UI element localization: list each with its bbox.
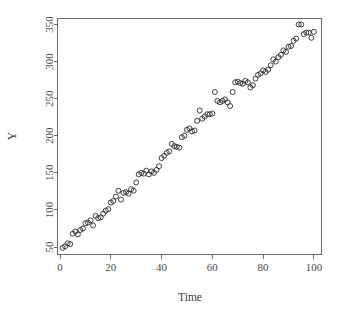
y-axis-title: Y — [6, 131, 18, 140]
x-axis-title: Time — [178, 291, 202, 303]
y-tick-label: 350 — [44, 16, 56, 33]
x-tick-label: 0 — [57, 261, 63, 273]
x-tick-label: 100 — [306, 261, 323, 273]
y-tick-label: 150 — [44, 164, 56, 181]
chart-screenshot: 50100150200250300350 020406080100 Y Time — [0, 0, 344, 319]
x-tick-label: 40 — [156, 261, 168, 273]
scatter-plot: 50100150200250300350 020406080100 Y Time — [0, 0, 344, 319]
y-tick-label: 300 — [44, 53, 56, 70]
y-tick-label: 250 — [44, 90, 56, 107]
x-tick-label: 60 — [207, 261, 219, 273]
y-tick-label: 100 — [44, 201, 56, 218]
y-tick-label: 200 — [44, 127, 56, 144]
y-tick-label: 50 — [44, 241, 56, 253]
x-tick-label: 80 — [258, 261, 270, 273]
x-tick-label: 20 — [105, 261, 117, 273]
